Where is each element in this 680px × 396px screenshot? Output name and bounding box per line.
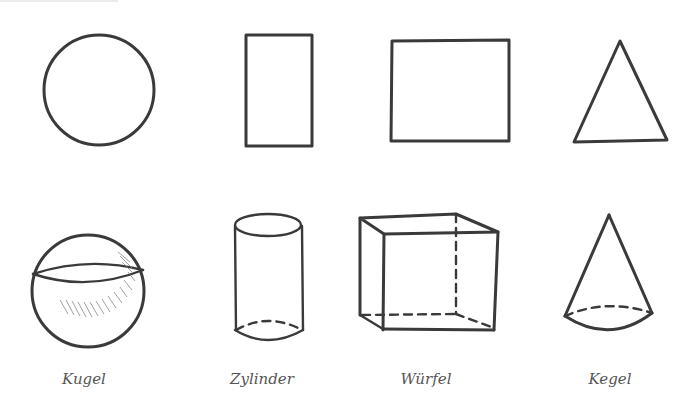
rectangle-shape [246,35,312,146]
cylinder-shape [235,214,303,340]
label-kegel: Kegel [589,370,632,388]
sphere-shape [32,235,144,347]
cube-shape [360,214,498,330]
square-shape [391,40,509,141]
cone-shape [565,215,652,330]
label-zylinder: Zylinder [230,370,294,388]
shapes-diagram [0,0,680,396]
circle-shape [44,35,154,145]
label-kugel: Kugel [62,370,106,388]
label-wuerfel: Würfel [401,370,452,388]
triangle-shape [574,41,667,142]
